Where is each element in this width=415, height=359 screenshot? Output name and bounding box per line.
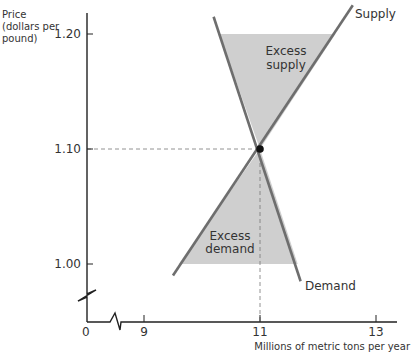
excess-supply-label-line-1: Excess — [266, 44, 307, 58]
demand-curve-label: Demand — [305, 279, 356, 293]
excess-demand-label-line-2: demand — [205, 242, 254, 256]
origin-label: 0 — [82, 325, 90, 339]
y-axis — [78, 13, 96, 322]
excess-demand-label-line-1: Excess — [210, 229, 251, 243]
y-tick-label: 1.20 — [54, 27, 81, 41]
x-tick-label: 11 — [252, 325, 267, 339]
y-axis-label-line-3: pound) — [2, 33, 37, 44]
y-tick-label: 1.00 — [54, 257, 81, 271]
x-axis-label: Millions of metric tons per year — [254, 341, 411, 352]
supply-demand-chart: Price (dollars per pound) Millions of me… — [0, 0, 415, 359]
x-tick-label: 9 — [140, 325, 148, 339]
excess-supply-label-line-2: supply — [266, 58, 306, 72]
x-tick-label: 13 — [368, 325, 383, 339]
y-tick-label: 1.10 — [54, 142, 81, 156]
y-axis-label-line-1: Price — [2, 9, 26, 20]
x-axis — [87, 313, 397, 330]
supply-curve-label: Supply — [355, 7, 396, 21]
y-axis-label-line-2: (dollars per — [2, 21, 60, 32]
equilibrium-point — [256, 145, 264, 153]
